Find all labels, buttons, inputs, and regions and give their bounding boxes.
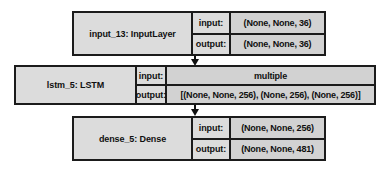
layer-io-table: input: multiple output: [(None, None, 25… <box>137 67 374 103</box>
layer-io-table: input: (None, None, 256) output: (None, … <box>193 118 324 159</box>
layer-node-dense-5: dense_5: Dense input: (None, None, 256) … <box>72 116 326 161</box>
layer-input-label: input: <box>193 13 231 33</box>
layer-output-row: output: [(None, None, 256), (None, 256),… <box>137 86 374 103</box>
layer-node-title: input_13: InputLayer <box>74 13 193 54</box>
layer-input-shape: multiple <box>167 67 374 84</box>
layer-node-title: lstm_5: LSTM <box>16 67 137 103</box>
layer-output-label: output: <box>137 86 167 103</box>
layer-input-label: input: <box>137 67 167 84</box>
layer-output-shape: (None, None, 481) <box>231 140 324 160</box>
layer-input-label: input: <box>193 118 231 138</box>
layer-output-shape: (None, None, 36) <box>231 35 324 55</box>
layer-output-row: output: (None, None, 36) <box>193 35 324 55</box>
layer-input-row: input: multiple <box>137 67 374 86</box>
layer-input-row: input: (None, None, 36) <box>193 13 324 35</box>
layer-input-shape: (None, None, 256) <box>231 118 324 138</box>
arrow-head <box>191 109 199 116</box>
layer-output-row: output: (None, None, 481) <box>193 140 324 160</box>
model-architecture-diagram: input_13: InputLayer input: (None, None,… <box>0 0 390 169</box>
layer-output-label: output: <box>193 140 231 160</box>
layer-node-input-13: input_13: InputLayer input: (None, None,… <box>72 11 326 56</box>
layer-node-title: dense_5: Dense <box>74 118 193 159</box>
layer-input-shape: (None, None, 36) <box>231 13 324 33</box>
layer-node-lstm-5: lstm_5: LSTM input: multiple output: [(N… <box>14 65 376 105</box>
layer-output-shape: [(None, None, 256), (None, 256), (None, … <box>167 86 374 103</box>
layer-io-table: input: (None, None, 36) output: (None, N… <box>193 13 324 54</box>
layer-output-label: output: <box>193 35 231 55</box>
layer-input-row: input: (None, None, 256) <box>193 118 324 140</box>
